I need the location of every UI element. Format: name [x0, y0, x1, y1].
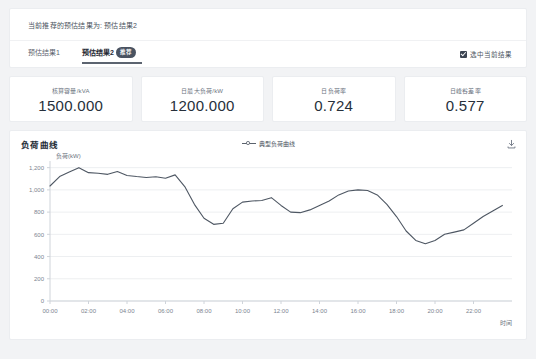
metric-card-row: 核算容量/kVA 1500.000 日最大负荷/kW 1200.000 日负荷率… — [9, 76, 527, 122]
load-curve-plot: 负荷(kW)02004006008001,0001,20000:0002:000… — [10, 149, 528, 339]
recommended-badge: 推荐 — [116, 47, 136, 58]
svg-text:08:00: 08:00 — [196, 308, 212, 314]
tab-label: 预估结果2 — [82, 49, 114, 56]
svg-text:06:00: 06:00 — [158, 308, 174, 314]
svg-text:400: 400 — [34, 254, 45, 260]
select-current-result-label: 选中当前结果 — [470, 49, 512, 59]
svg-text:00:00: 00:00 — [42, 308, 58, 314]
result-tabs: 预估结果1 预估结果2推荐 — [28, 47, 136, 64]
estimate-result-panel: 当前推荐的预估结果为: 预估结果2 预估结果1 预估结果2推荐 选中当前结果 — [9, 8, 527, 68]
svg-text:时间: 时间 — [500, 319, 512, 327]
metric-value: 0.724 — [314, 98, 353, 113]
svg-text:16:00: 16:00 — [350, 308, 366, 314]
svg-text:负荷(kW): 负荷(kW) — [56, 152, 81, 160]
metric-label: 日峰谷差率 — [450, 86, 481, 95]
svg-text:02:00: 02:00 — [81, 308, 97, 314]
svg-text:10:00: 10:00 — [235, 308, 251, 314]
tab-label: 预估结果1 — [28, 49, 60, 56]
metric-value: 0.577 — [446, 98, 485, 113]
panel-divider — [10, 40, 526, 41]
svg-text:0: 0 — [41, 298, 45, 304]
svg-text:1,200: 1,200 — [29, 165, 45, 171]
recommend-result-text: 当前推荐的预估结果为: 预估结果2 — [28, 20, 137, 30]
svg-text:20:00: 20:00 — [427, 308, 443, 314]
tab-estimate-result-1[interactable]: 预估结果1 — [28, 47, 60, 63]
metric-label: 日最大负荷/kW — [181, 86, 223, 95]
select-current-result-checkbox[interactable]: 选中当前结果 — [460, 49, 512, 59]
svg-text:800: 800 — [34, 209, 45, 215]
metric-card-max-load: 日最大负荷/kW 1200.000 — [141, 76, 265, 122]
legend-marker-icon — [242, 140, 256, 147]
tab-estimate-result-2[interactable]: 预估结果2推荐 — [82, 47, 136, 64]
svg-text:12:00: 12:00 — [273, 308, 289, 314]
metric-card-load-rate: 日负荷率 0.724 — [272, 76, 396, 122]
metric-label: 核算容量/kVA — [52, 86, 90, 95]
svg-text:200: 200 — [34, 276, 45, 282]
metric-value: 1500.000 — [38, 98, 103, 113]
metric-value: 1200.000 — [170, 98, 235, 113]
svg-text:1,000: 1,000 — [29, 187, 45, 193]
svg-text:04:00: 04:00 — [119, 308, 135, 314]
checkbox-icon[interactable] — [460, 51, 467, 58]
legend-label: 典型负荷曲线 — [259, 139, 295, 148]
chart-legend: 典型负荷曲线 — [10, 139, 526, 148]
metric-card-capacity: 核算容量/kVA 1500.000 — [9, 76, 133, 122]
page-root: 当前推荐的预估结果为: 预估结果2 预估结果1 预估结果2推荐 选中当前结果 核… — [0, 0, 536, 359]
svg-text:18:00: 18:00 — [389, 308, 405, 314]
load-curve-chart-card: 负荷曲线 典型负荷曲线 负荷(kW)02004006008001,0001,20… — [9, 130, 527, 340]
metric-card-peak-valley-rate: 日峰谷差率 0.577 — [404, 76, 528, 122]
svg-text:600: 600 — [34, 232, 45, 238]
svg-text:14:00: 14:00 — [312, 308, 328, 314]
svg-text:22:00: 22:00 — [466, 308, 482, 314]
metric-label: 日负荷率 — [321, 86, 346, 95]
